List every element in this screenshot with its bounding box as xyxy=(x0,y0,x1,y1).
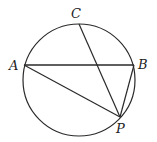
segment-ap xyxy=(24,65,120,117)
segment-cp xyxy=(79,24,120,117)
label-c: C xyxy=(71,6,81,21)
label-b: B xyxy=(137,57,148,72)
label-p: P xyxy=(115,121,125,136)
label-a: A xyxy=(8,58,18,73)
geometry-diagram: A B C P xyxy=(0,0,157,142)
circle xyxy=(23,24,135,136)
